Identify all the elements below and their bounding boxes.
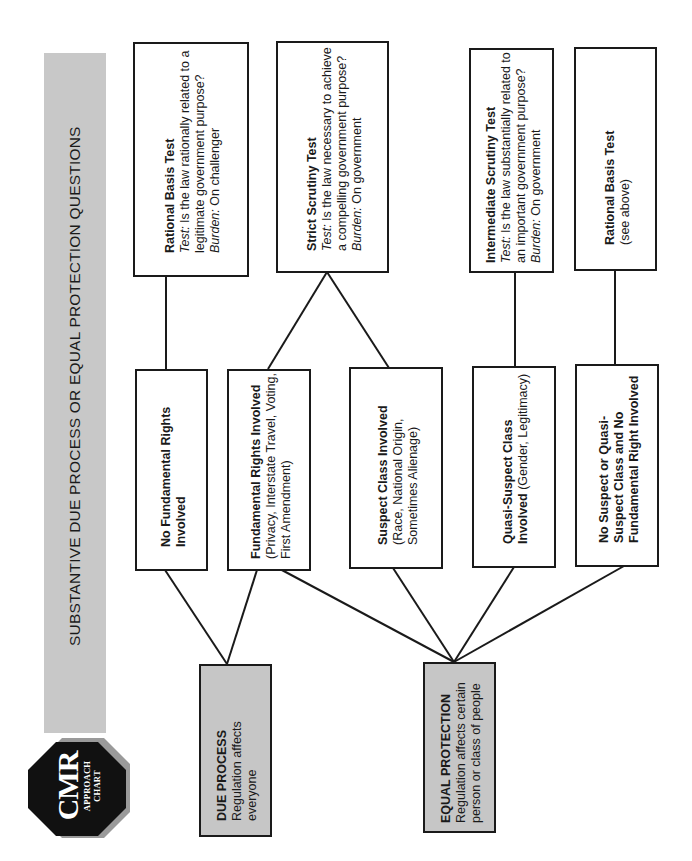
equal-protection-box: EQUAL PROTECTION Regulation affects cert…: [423, 662, 496, 833]
page-title: SUBSTANTIVE DUE PROCESS OR EQUAL PROTECT…: [66, 53, 84, 646]
root-title: EQUAL PROTECTION: [439, 666, 454, 823]
quasi-suspect-class-box: Quasi-Suspect Class Involved (Gender, Le…: [472, 366, 556, 568]
test-title: Intermediate Scrutiny Test: [484, 52, 499, 263]
root-desc: Regulation affects certain person or cla…: [454, 666, 484, 823]
strict-scrutiny-test-box: Strict Scrutiny Test Test: Is the law ne…: [276, 41, 389, 273]
logo-cmr: CMR: [54, 752, 82, 821]
logo-approach: APPROACH: [82, 761, 92, 812]
logo-chart: CHART: [92, 770, 102, 802]
intermediate-scrutiny-test-box: Intermediate Scrutiny Test Test: Is the …: [469, 48, 554, 273]
suspect-class-box: Suspect Class Involved (Race, National O…: [349, 367, 443, 569]
cmr-logo: CMR APPROACH CHART: [26, 734, 130, 838]
rational-basis-test-box: Rational Basis Test Test: Is the law rat…: [133, 42, 249, 277]
title-bar: SUBSTANTIVE DUE PROCESS OR EQUAL PROTECT…: [44, 53, 106, 733]
test-title: Strict Scrutiny Test: [305, 47, 320, 251]
test-title: Rational Basis Test: [603, 51, 618, 245]
no-fundamental-rights-box: No Fundamental Rights Involved: [135, 369, 208, 571]
test-title: Rational Basis Test: [163, 50, 178, 253]
root-title: DUE PROCESS: [215, 668, 230, 821]
root-desc: Regulation affects everyone: [230, 668, 260, 821]
no-suspect-class-box: No Suspect or Quasi-Suspect Class and No…: [575, 364, 659, 567]
rational-basis-see-above-box: Rational Basis Test (see above): [574, 47, 657, 271]
due-process-box: DUE PROCESS Regulation affects everyone: [199, 664, 272, 837]
see-above-note: (see above): [618, 51, 633, 245]
fundamental-rights-box: Fundamental Rights Involved (Privacy, In…: [227, 369, 311, 571]
